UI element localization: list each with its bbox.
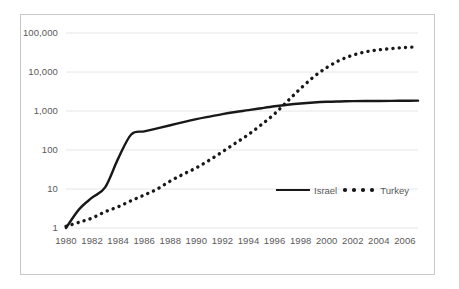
x-tick-label-1986: 1986: [130, 235, 158, 246]
legend-label-turkey: Turkey: [380, 185, 409, 196]
y-tick-label-1000: 1,000: [34, 105, 58, 116]
x-tick-label-1992: 1992: [208, 235, 236, 246]
chart-container: 100,00010,0001,000100101 198019821984198…: [0, 0, 459, 289]
y-tick-label-100: 100: [42, 144, 58, 155]
y-tick-label-10: 10: [47, 183, 58, 194]
legend-entry-turkey: Turkey: [342, 185, 409, 196]
y-tick-label-1: 1: [53, 222, 58, 233]
chart-legend: Israel Turkey: [276, 183, 409, 197]
x-tick-label-2002: 2002: [339, 235, 367, 246]
x-tick-label-1998: 1998: [287, 235, 315, 246]
legend-entry-israel: Israel: [276, 185, 337, 196]
legend-line-swatch-icon: [276, 189, 310, 191]
legend-dotted-swatch-icon: [342, 188, 376, 192]
x-tick-label-2006: 2006: [391, 235, 419, 246]
x-tick-label-1980: 1980: [52, 235, 80, 246]
y-tick-label-100000: 100,000: [23, 27, 58, 38]
x-tick-label-2000: 2000: [313, 235, 341, 246]
y-tick-label-10000: 10,000: [28, 66, 58, 77]
x-tick-label-1984: 1984: [104, 235, 132, 246]
x-tick-label-1996: 1996: [261, 235, 289, 246]
legend-label-israel: Israel: [314, 185, 337, 196]
x-tick-label-1988: 1988: [156, 235, 184, 246]
x-tick-label-1990: 1990: [182, 235, 210, 246]
x-tick-label-2004: 2004: [365, 235, 393, 246]
x-tick-label-1982: 1982: [78, 235, 106, 246]
x-tick-label-1994: 1994: [235, 235, 263, 246]
